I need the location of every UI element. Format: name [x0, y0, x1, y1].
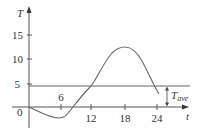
arrow-up-icon	[165, 87, 169, 91]
x-tick-label-24: 24	[152, 112, 164, 124]
temperature-chart: T t 0 5 10 15 6 12 18 24 Tave	[0, 0, 200, 138]
x-tick-label-18: 18	[120, 112, 132, 124]
x-tick-label-12: 12	[86, 112, 97, 124]
arrow-down-icon	[165, 103, 169, 107]
y-tick-label-5: 5	[15, 78, 21, 90]
y-tick-label-15: 15	[12, 29, 24, 41]
origin-label: 0	[17, 106, 23, 118]
y-tick-label-10: 10	[12, 53, 24, 65]
x-axis-label: t	[186, 110, 190, 122]
y-axis-label: T	[17, 7, 24, 19]
x-axis-arrow-icon	[182, 105, 189, 110]
y-axis-arrow-icon	[27, 6, 32, 13]
t-ave-label: Tave	[171, 89, 189, 103]
x-tick-label-6: 6	[58, 91, 64, 103]
